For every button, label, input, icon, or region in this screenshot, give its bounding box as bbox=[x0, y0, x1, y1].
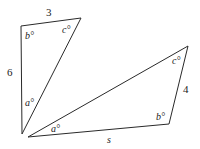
triangle-1-side-top-label: 3 bbox=[46, 6, 52, 18]
diagram-canvas: 3 6 b° c° a° 4 s a° c° b° bbox=[0, 0, 200, 149]
triangle-1: 3 6 b° c° a° bbox=[7, 6, 81, 134]
triangle-2-angle-c-label: c° bbox=[172, 55, 180, 66]
triangle-1-angle-a-label: a° bbox=[25, 97, 34, 108]
triangle-2-side-right-label: 4 bbox=[183, 83, 189, 95]
triangle-2: 4 s a° c° b° bbox=[28, 46, 189, 145]
triangle-1-angle-b-label: b° bbox=[25, 30, 34, 41]
triangle-1-angle-c-label: c° bbox=[62, 24, 70, 35]
triangle-2-angle-b-label: b° bbox=[156, 111, 165, 122]
triangle-2-side-bottom-label: s bbox=[107, 134, 111, 145]
triangle-1-side-left-label: 6 bbox=[7, 66, 13, 78]
triangle-2-angle-a-label: a° bbox=[51, 123, 60, 134]
